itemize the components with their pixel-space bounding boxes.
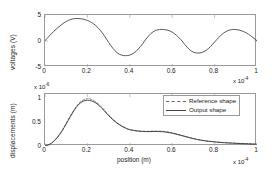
voltages-xtick-0: 0 — [42, 67, 46, 74]
voltages-xtick-2: 0.4 — [124, 67, 133, 74]
voltages-ytick-0: 5 — [31, 11, 41, 18]
voltages-xtick-3: 0.6 — [167, 67, 176, 74]
legend-label-output-shape: Output shape — [189, 106, 226, 114]
legend-item-output-shape: Output shape — [166, 106, 236, 114]
displacements-xtick-5: 1 — [254, 146, 258, 153]
displacements-ytick-0: 0 — [31, 142, 41, 149]
displacements-y-axis-label: displacements (m) — [9, 103, 16, 158]
legend-label-reference-shape: Reference shape — [189, 97, 236, 105]
displacements-x-exponent: x 10-4 — [233, 157, 248, 165]
displacements-xtick-0: 0 — [42, 146, 46, 153]
voltages-y-axis-label: voltages (V) — [9, 34, 16, 70]
displacements-ytick-1: 0.5 — [25, 118, 41, 125]
displacements-xtick-4: 0.8 — [209, 146, 218, 153]
voltages-plot-area — [44, 14, 256, 66]
voltages-ytick-2: -5 — [28, 63, 41, 70]
displacements-x-axis-label: position (m) — [117, 156, 151, 163]
voltages-line-chart — [45, 15, 257, 67]
displacements-y-exponent-power: -6 — [45, 82, 49, 87]
figure-canvas: voltages (V) 5 0 -5 — [0, 0, 272, 175]
voltages-x-exponent: x 10-4 — [233, 76, 248, 84]
voltages-x-exponent-power: -4 — [244, 76, 248, 81]
displacements-ytick-2: 1 — [31, 94, 41, 101]
voltages-x-exponent-mantissa: x 10 — [233, 78, 244, 84]
voltages-xtick-4: 0.8 — [209, 67, 218, 74]
displacements-xtick-1: 0.2 — [82, 146, 91, 153]
displacements-xtick-3: 0.6 — [167, 146, 176, 153]
displacements-x-exponent-power: -4 — [244, 157, 248, 162]
voltages-xtick-5: 1 — [254, 67, 258, 74]
displacements-y-exponent: x 10-6 — [34, 82, 49, 90]
legend-solid-line-icon — [166, 108, 186, 112]
voltages-curve — [45, 18, 257, 55]
voltages-ytick-1: 0 — [31, 37, 41, 44]
legend-dashed-line-icon — [166, 99, 186, 103]
voltages-xtick-1: 0.2 — [82, 67, 91, 74]
displacements-x-exponent-mantissa: x 10 — [233, 159, 244, 165]
displacements-xtick-2: 0.4 — [124, 146, 133, 153]
voltages-ticks — [45, 15, 257, 67]
displacements-legend: Reference shape Output shape — [163, 95, 240, 116]
legend-item-reference-shape: Reference shape — [166, 97, 236, 105]
displacements-y-exponent-mantissa: x 10 — [34, 84, 45, 90]
